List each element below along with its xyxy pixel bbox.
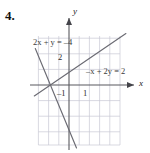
plotted-lines <box>34 34 126 149</box>
y-tick-label-negative-1: –1 <box>57 88 66 98</box>
line-2x-plus-y-equals-neg4 <box>35 49 76 149</box>
y-axis-label: y <box>73 6 77 16</box>
coordinate-plane-svg <box>0 0 150 153</box>
grid-lines <box>38 36 120 145</box>
equation-label-line1: 2x + y = –4 <box>33 37 72 47</box>
x-tick-label-1: 1 <box>83 88 87 98</box>
equation-label-line2: –x + 2y = 2 <box>86 66 125 76</box>
y-axis-arrowhead <box>66 18 72 25</box>
axis-arrowheads <box>66 18 134 88</box>
x-axis-label: x <box>139 78 143 88</box>
x-axis-arrowhead <box>127 82 134 88</box>
y-tick-label-2: 2 <box>58 52 62 62</box>
